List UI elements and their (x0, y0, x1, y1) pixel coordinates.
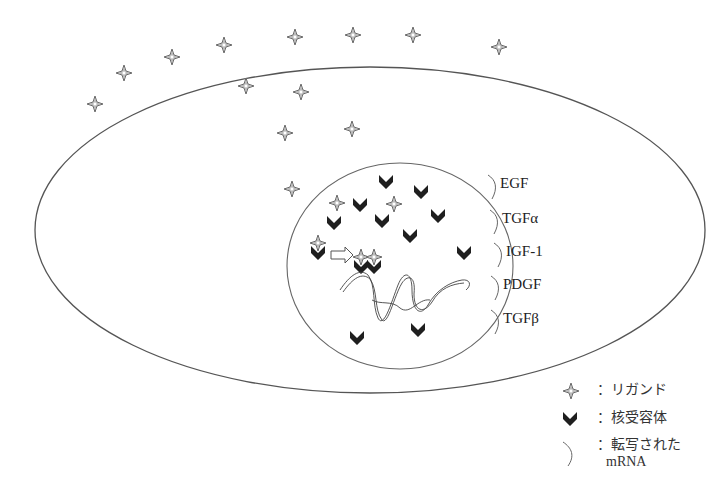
receptor-chevron-icon (379, 175, 393, 189)
receptor-chevron-icon (457, 246, 471, 260)
ligand-star-icon (386, 196, 402, 212)
ligand-star-icon (116, 65, 132, 81)
legend-ligand-star-icon (563, 383, 579, 399)
ligand-star-icon (216, 37, 232, 53)
mrna-label-igf1: IGF-1 (506, 244, 543, 259)
ligand-star-icon (87, 96, 103, 112)
legend-ligand-text: ：リガンド (597, 382, 667, 397)
mrna-bracket-icon (491, 276, 498, 300)
ligand-star-icon (277, 125, 293, 141)
mrna-bracket-icon (490, 210, 497, 234)
ligand-star-icon (344, 121, 360, 137)
receptor-chevron-icon (403, 229, 417, 243)
ligand-star-icon (405, 27, 421, 43)
ligand-star-icon (287, 29, 303, 45)
mrna-bracket-icon (494, 243, 501, 267)
ligand-star-icon (284, 181, 300, 197)
receptor-chevron-icon (411, 323, 425, 337)
ligand-star-icon (345, 27, 361, 43)
legend-mrna-text: ：転写された (597, 437, 681, 452)
receptor-chevron-icon (327, 216, 341, 230)
mrna-label-egf: EGF (500, 176, 528, 191)
translocation-arrow-icon (331, 247, 353, 263)
mrna-label-tgf: TGFβ (503, 311, 539, 326)
receptor-chevron-icon (414, 185, 428, 199)
legend-mrna-curve-icon (563, 442, 572, 466)
mrna-label-tgf: TGFα (502, 211, 538, 226)
mrna-bracket-group (488, 175, 501, 334)
legend-mrna-text-2: mRNA (606, 454, 646, 469)
ligand-star-icon (238, 78, 254, 94)
receptor-chevron-icon (431, 209, 445, 223)
ligand-group (87, 27, 507, 212)
nucleus-membrane (287, 163, 513, 369)
receptor-chevron-icon (350, 331, 364, 345)
cell-membrane (35, 67, 705, 393)
receptor-chevron-icon (375, 214, 389, 228)
receptor-chevron-icon (353, 198, 367, 212)
diagram-stage: EGFTGFαIGF-1PDGFTGFβ ：リガンド ：核受容体 ：転写された … (0, 0, 719, 491)
ligand-star-icon (491, 39, 507, 55)
ligand-star-icon (329, 195, 345, 211)
ligand-star-icon (164, 49, 180, 65)
legend-receptor-text: ：核受容体 (597, 410, 667, 425)
ligand-star-icon (293, 84, 309, 100)
mrna-label-pdgf: PDGF (503, 277, 541, 292)
mrna-bracket-icon (488, 175, 495, 199)
dna-strand (340, 272, 469, 321)
legend-receptor-chevron-icon (563, 412, 577, 426)
